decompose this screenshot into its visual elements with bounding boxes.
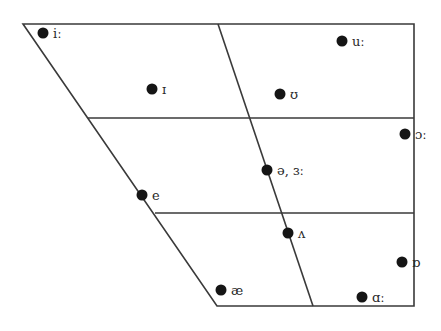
- vowel-point: ɒ: [397, 255, 421, 270]
- vowel-label: ɒ: [412, 255, 420, 270]
- dot-icon: [147, 84, 158, 95]
- dot-icon: [357, 292, 368, 303]
- vowel-label: æ: [231, 283, 243, 298]
- vowel-label: ɔː: [415, 127, 427, 142]
- dot-icon: [262, 165, 273, 176]
- vowel-label: e: [152, 188, 160, 203]
- dot-icon: [397, 257, 408, 268]
- vowel-label: ɪ: [162, 82, 166, 97]
- dot-icon: [137, 190, 148, 201]
- vowel-point: e: [137, 188, 161, 203]
- vowel-point: æ: [216, 283, 244, 298]
- vowel-chart: iːuːɪʊɔːə, ɜːeʌɒæɑː: [0, 0, 441, 331]
- vowel-label: ɑː: [372, 290, 385, 305]
- dot-icon: [38, 28, 49, 39]
- vowel-point: ɑː: [357, 290, 385, 305]
- vowel-point: ʊ: [275, 87, 299, 102]
- vowel-point: iː: [38, 26, 62, 41]
- vowel-label: ʌ: [297, 226, 306, 241]
- dot-icon: [275, 89, 286, 100]
- vowel-label: iː: [53, 26, 62, 41]
- vowel-point: uː: [337, 34, 365, 49]
- vowel-point: ə, ɜː: [262, 163, 304, 178]
- vowel-label: uː: [352, 34, 365, 49]
- vowel-label: ə, ɜː: [277, 163, 304, 178]
- dot-icon: [337, 36, 348, 47]
- dot-icon: [283, 228, 294, 239]
- vowel-label: ʊ: [290, 87, 298, 102]
- dot-icon: [400, 129, 411, 140]
- vowel-trapezoid-frame: [23, 24, 414, 306]
- vowel-point: ɔː: [400, 127, 427, 142]
- vowel-point: ɪ: [147, 82, 167, 97]
- dot-icon: [216, 285, 227, 296]
- trapezoid-outline: [23, 24, 414, 306]
